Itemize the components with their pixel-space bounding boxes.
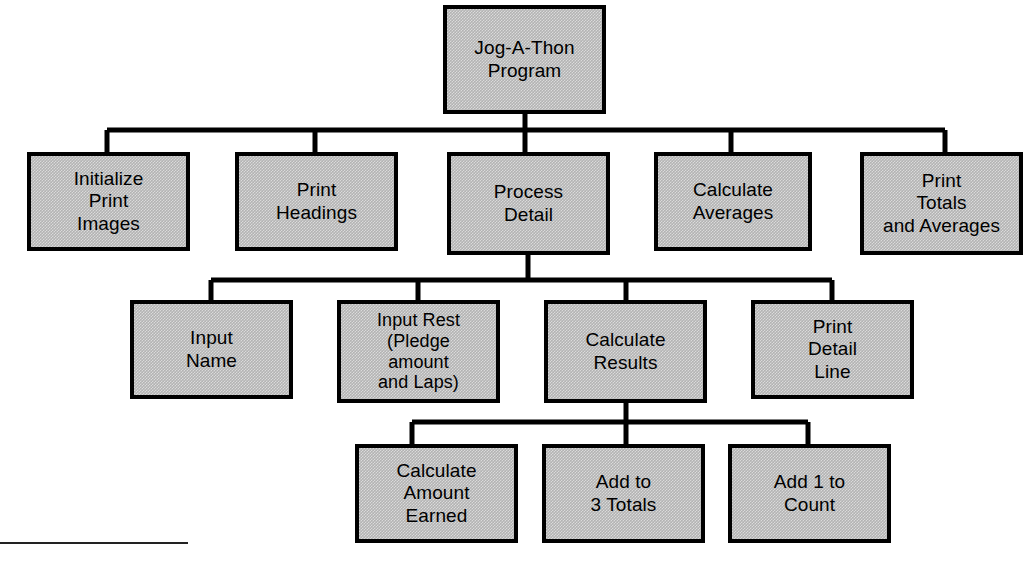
node-input-name[interactable]: Input Name [130,300,293,399]
node-label-calculate-averages: Calculate Averages [689,179,778,223]
node-label-process-detail: Process Detail [490,181,567,225]
node-label-input-name: Input Name [182,327,241,371]
node-label-add-to-3-totals: Add to 3 Totals [587,471,661,515]
node-print-totals-and-averages[interactable]: Print Totals and Averages [860,152,1023,255]
node-input-rest[interactable]: Input Rest (Pledge amount and Laps) [337,300,500,403]
node-label-initialize-print-images: Initialize Print Images [70,168,148,234]
node-print-headings[interactable]: Print Headings [235,152,398,251]
node-calculate-averages[interactable]: Calculate Averages [654,152,812,251]
node-calculate-results[interactable]: Calculate Results [544,300,707,403]
node-label-jog-a-thon-program: Jog-A-Thon Program [470,37,578,81]
node-calculate-amount-earned[interactable]: Calculate Amount Earned [355,444,518,543]
node-label-print-headings: Print Headings [272,179,361,223]
node-add-1-to-count[interactable]: Add 1 to Count [728,444,891,543]
node-label-add-1-to-count: Add 1 to Count [770,471,850,515]
node-label-print-detail-line: Print Detail Line [804,316,861,382]
structure-chart-canvas: Jog-A-Thon Program Initialize Print Imag… [0,0,1032,561]
node-add-to-3-totals[interactable]: Add to 3 Totals [542,444,705,543]
node-print-detail-line[interactable]: Print Detail Line [751,300,914,399]
node-initialize-print-images[interactable]: Initialize Print Images [27,152,190,251]
node-jog-a-thon-program[interactable]: Jog-A-Thon Program [443,5,606,114]
node-label-calculate-results: Calculate Results [581,329,669,373]
node-label-input-rest: Input Rest (Pledge amount and Laps) [373,310,464,394]
node-label-print-totals-and-averages: Print Totals and Averages [879,170,1004,236]
node-process-detail[interactable]: Process Detail [447,152,610,255]
footnote-rule [0,542,188,544]
node-label-calculate-amount-earned: Calculate Amount Earned [392,460,480,526]
